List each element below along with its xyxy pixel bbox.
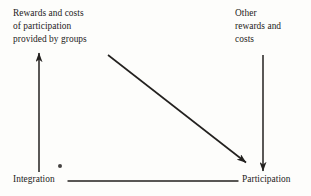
node-label-integration: Integration	[13, 173, 73, 186]
path-diagram-figure: Rewards and costs of participation provi…	[0, 0, 311, 196]
rewards-to-participation-diagonal-arrow	[108, 55, 246, 163]
scan-speck-artifact	[58, 164, 62, 168]
node-label-participation: Participation	[242, 173, 311, 186]
node-label-other-rewards-costs: Other rewards and costs	[235, 7, 307, 47]
node-label-rewards-costs-groups: Rewards and costs of participation provi…	[13, 7, 121, 47]
